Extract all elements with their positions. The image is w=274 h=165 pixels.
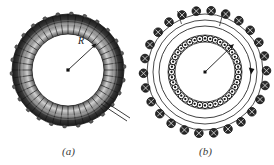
loop-direction-arrow <box>248 67 255 74</box>
toroid-cross-section-drawing <box>137 0 274 165</box>
figure-panel-b: L P O r (b) <box>137 0 274 165</box>
caption-panel-a: (a) <box>0 145 137 157</box>
caption-panel-b: (b) <box>137 145 274 157</box>
center-point-O <box>204 71 207 74</box>
figure-panel-a: R (a) <box>0 0 137 165</box>
label-radius-R: R <box>78 36 84 46</box>
center-dot <box>66 68 69 71</box>
physics-figure-toroid: R (a) <box>0 0 274 165</box>
radius-indicator-r <box>204 44 235 74</box>
toroid-3d-drawing <box>0 0 137 165</box>
